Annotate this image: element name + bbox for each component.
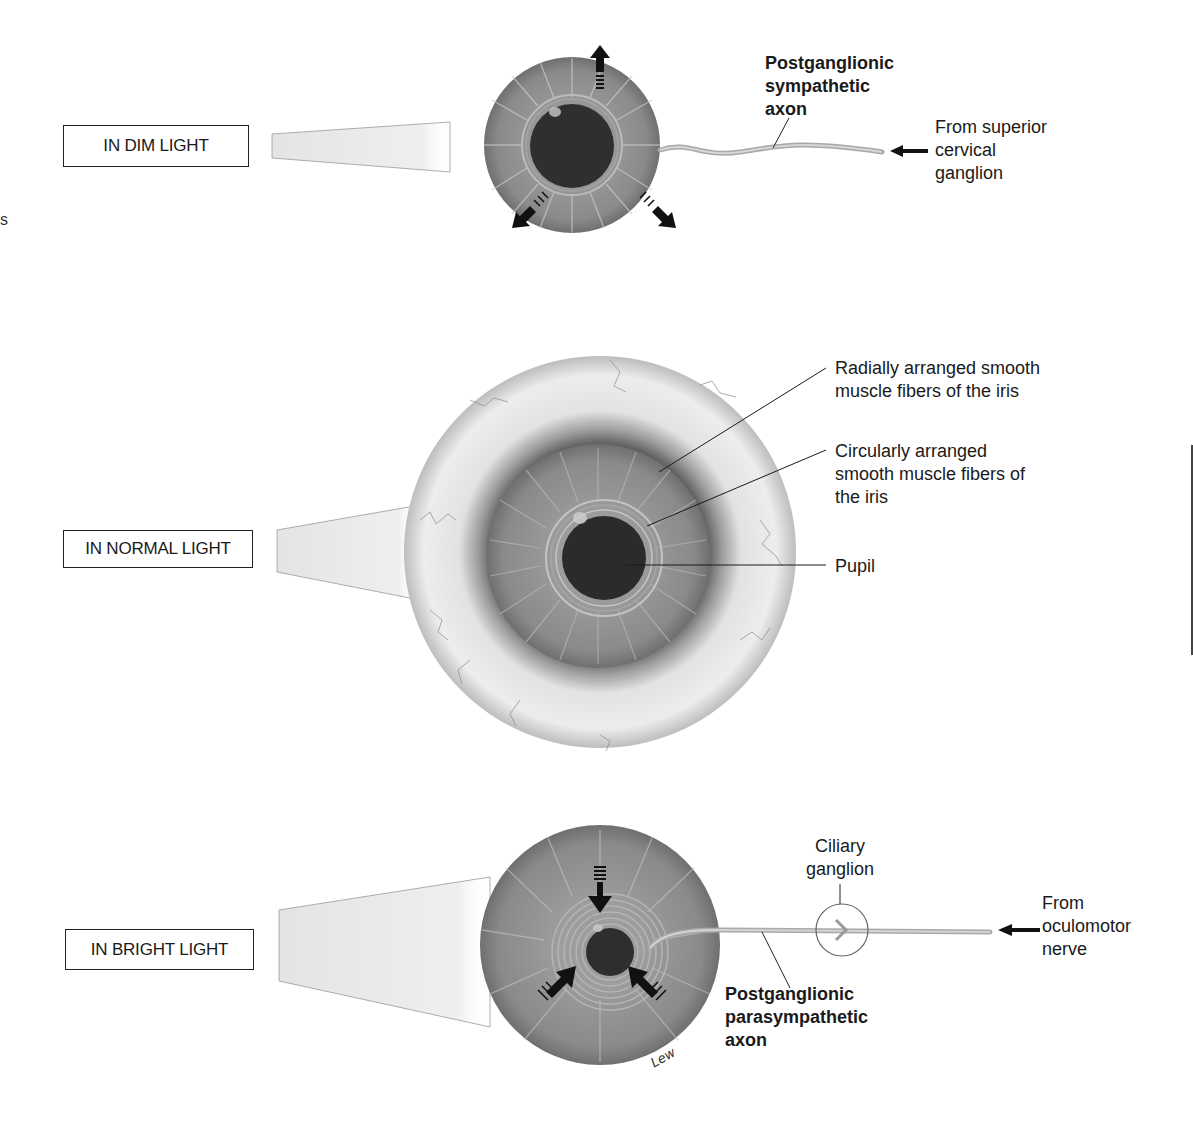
parasympathetic-axon-label: Postganglionic parasympathetic axon <box>725 983 868 1052</box>
circular-fibers-label: Circularly arranged smooth muscle fibers… <box>835 440 1025 509</box>
condition-box-dim: IN DIM LIGHT <box>63 125 249 167</box>
light-beam-bright <box>279 877 490 1027</box>
radial-fibers-label: Radially arranged smooth muscle fibers o… <box>835 357 1040 403</box>
oculomotor-nerve-label: From oculomotor nerve <box>1042 892 1131 961</box>
ciliary-ganglion-label: Ciliary ganglion <box>806 835 874 881</box>
superior-cervical-ganglion-label: From superior cervical ganglion <box>935 116 1047 185</box>
source-arrow-bright <box>998 924 1040 936</box>
condition-box-normal: IN NORMAL LIGHT <box>63 530 253 568</box>
pupil-dim <box>530 104 614 188</box>
bright-light-panel <box>279 825 1040 1065</box>
pupil-bright <box>586 928 634 976</box>
sympathetic-axon-label: Postganglionic sympathetic axon <box>765 52 894 121</box>
light-beam-normal <box>277 505 420 600</box>
source-arrow-dim <box>890 145 928 157</box>
light-beam-dim <box>272 122 450 172</box>
pupil-label: Pupil <box>835 555 875 578</box>
pupil-normal <box>562 516 646 600</box>
condition-box-bright: IN BRIGHT LIGHT <box>65 929 254 970</box>
normal-light-panel <box>277 356 826 751</box>
